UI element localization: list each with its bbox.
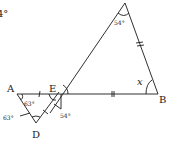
partial-label-top-left: 4° bbox=[0, 8, 8, 19]
tick-cb-2 bbox=[137, 45, 144, 46]
point-label-b: B bbox=[159, 94, 166, 105]
angle-label-a: 63° bbox=[24, 100, 35, 107]
point-label-e: E bbox=[49, 83, 56, 94]
angle-label-c: 54° bbox=[114, 19, 125, 26]
segment-ad bbox=[17, 94, 36, 123]
point-label-d: D bbox=[32, 129, 40, 140]
geometry-diagram: 4° A E B D 54° 63° 63° 54° x bbox=[0, 0, 174, 142]
angle-label-x: x bbox=[137, 76, 143, 87]
angle-arc-b bbox=[146, 80, 152, 94]
tick-cb-1 bbox=[136, 42, 143, 43]
point-label-a: A bbox=[6, 83, 15, 94]
segment-foot bbox=[54, 104, 61, 109]
leader-63 bbox=[20, 113, 30, 116]
angle-label-e-vertical: 54° bbox=[60, 112, 71, 119]
angle-arc-d bbox=[32, 116, 40, 117]
angle-label-d-side: 63° bbox=[3, 114, 14, 121]
tick-ae bbox=[39, 91, 40, 97]
angle-arc-c bbox=[118, 13, 129, 16]
